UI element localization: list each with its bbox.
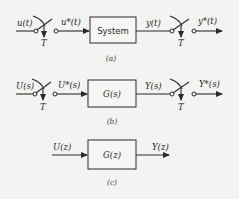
caption-c: (c) xyxy=(107,178,117,187)
sampler-period-label: T xyxy=(40,102,47,112)
caption-a: (a) xyxy=(106,54,116,63)
block-label: System xyxy=(97,26,129,36)
sampler2-period-label: T xyxy=(178,102,185,112)
sampler-rotation-arc xyxy=(33,16,45,26)
input-label: U(s) xyxy=(16,81,34,91)
input-label: u(t) xyxy=(17,18,33,28)
sampled-output-label: Y*(s) xyxy=(199,79,220,89)
block-label: G(s) xyxy=(103,89,121,99)
output-label: Y(s) xyxy=(145,81,162,91)
caption-b: (b) xyxy=(107,117,118,126)
output-label: Y(z) xyxy=(152,142,169,152)
diagram-a: u(t) u*(t) System y(t) y*(t) T T (a) xyxy=(16,16,222,63)
input-label: U(z) xyxy=(53,142,71,152)
sampled-input-label: U*(s) xyxy=(58,80,80,90)
sampler-contact-out xyxy=(54,29,58,33)
sampler-period-label: T xyxy=(41,38,48,48)
sampled-output-label: y*(t) xyxy=(197,16,217,26)
output-label: y(t) xyxy=(145,18,161,28)
sampled-system-diagram: u(t) u*(t) System y(t) y*(t) T T (a) U(s… xyxy=(0,0,239,199)
sampled-input-label: u*(t) xyxy=(61,17,81,27)
sampler2-contact-out xyxy=(192,29,196,33)
sampler2-period-label: T xyxy=(178,38,185,48)
diagram-c: U(z) G(z) Y(z) (c) xyxy=(52,140,169,187)
sampler-contact-out xyxy=(53,92,57,96)
diagram-b: U(s) U*(s) G(s) Y(s) Y*(s) T T (b) xyxy=(16,79,222,126)
block-label: G(z) xyxy=(103,150,121,160)
sampler2-contact-out xyxy=(192,92,196,96)
